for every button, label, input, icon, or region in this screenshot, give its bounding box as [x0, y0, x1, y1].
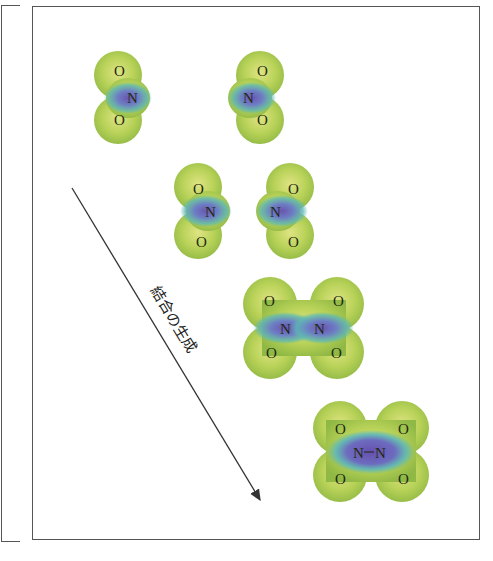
no2-molecule-1b: O N O [228, 51, 284, 144]
oxygen-atom: O [335, 421, 346, 437]
nitrogen-atom: N [243, 90, 254, 106]
nitrogen-atom: N [375, 445, 386, 461]
n2o4-molecule: O O N N O O [313, 401, 429, 502]
no2-molecule-2b: O N O [256, 163, 314, 259]
oxygen-atom: O [196, 234, 207, 250]
oxygen-atom: O [288, 181, 299, 197]
arrow-label: 結合の生成 [147, 283, 201, 357]
oxygen-atom: O [266, 345, 277, 361]
oxygen-atom: O [257, 63, 268, 79]
oxygen-atom: O [398, 471, 409, 487]
oxygen-atom: O [193, 181, 204, 197]
oxygen-atom: O [264, 293, 275, 309]
no2-molecule-2a: O N O [174, 163, 232, 259]
nitrogen-atom: N [280, 321, 291, 337]
oxygen-atom: O [335, 471, 346, 487]
reaction-arrow [72, 188, 260, 500]
nitrogen-atom: N [127, 90, 138, 106]
nitrogen-atom: N [205, 204, 216, 220]
oxygen-atom: O [114, 63, 125, 79]
no2-molecule-1a: O N O [94, 51, 152, 144]
nitrogen-atom: N [270, 204, 281, 220]
oxygen-atom: O [114, 112, 125, 128]
oxygen-atom: O [288, 234, 299, 250]
nitrogen-atom: N [353, 445, 364, 461]
oxygen-atom: O [398, 421, 409, 437]
diagram-canvas: 結合の生成 O N O O N O O N O O N O [0, 0, 493, 561]
no2-pair-contact: O O N N O O [243, 277, 364, 379]
oxygen-atom: O [331, 345, 342, 361]
nitrogen-atom: N [314, 321, 325, 337]
oxygen-atom: O [257, 112, 268, 128]
oxygen-atom: O [333, 293, 344, 309]
